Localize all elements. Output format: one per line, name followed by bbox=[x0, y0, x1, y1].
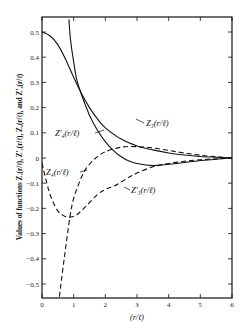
y-tick-label: −0.2 bbox=[26, 205, 39, 213]
x-tick-label: 2 bbox=[104, 301, 108, 309]
x-tick-label: 1 bbox=[72, 301, 76, 309]
y-axis-ticks: 0.50.40.30.20.10−0.1−0.2−0.3−0.4−0.5 bbox=[26, 29, 232, 289]
y-tick-label: −0.5 bbox=[26, 281, 39, 289]
curve-z4r bbox=[69, 19, 232, 165]
annotation-pointer bbox=[80, 170, 87, 172]
curve-z3r bbox=[42, 32, 232, 158]
curves bbox=[42, 19, 232, 296]
y-tick-label: 0 bbox=[36, 155, 40, 163]
x-tick-label: 6 bbox=[230, 301, 234, 309]
y-tick-label: 0.3 bbox=[30, 79, 39, 87]
chart: 0123456 0.50.40.30.20.10−0.1−0.2−0.3−0.4… bbox=[0, 0, 243, 329]
y-axis-title: Values of functions Z₃(r/ℓ), Z'₃(r/ℓ), Z… bbox=[16, 73, 24, 240]
x-tick-label: 4 bbox=[167, 301, 171, 309]
y-tick-label: 0.2 bbox=[30, 104, 39, 112]
plot-frame bbox=[42, 17, 232, 298]
y-tick-label: 0.1 bbox=[30, 129, 39, 137]
x-tick-label: 3 bbox=[135, 301, 139, 309]
label-z4-prime: Z'₄(r/ℓ) bbox=[55, 128, 80, 138]
y-tick-label: −0.3 bbox=[26, 230, 39, 238]
y-tick-label: −0.1 bbox=[26, 180, 39, 188]
annotation-pointer bbox=[95, 130, 104, 133]
x-tick-label: 0 bbox=[40, 301, 44, 309]
x-axis-title: (r/ℓ) bbox=[130, 313, 144, 322]
y-tick-label: 0.4 bbox=[30, 54, 39, 62]
annotation-pointer bbox=[124, 187, 130, 190]
annotation-pointer bbox=[136, 119, 144, 123]
label-z4: Z₄(r/ℓ) bbox=[46, 167, 69, 177]
y-tick-label: −0.4 bbox=[26, 255, 39, 263]
x-tick-label: 5 bbox=[199, 301, 203, 309]
label-z3-prime: Z'₃(r/ℓ) bbox=[131, 185, 156, 195]
y-tick-label: 0.5 bbox=[30, 29, 39, 37]
curve-annotations bbox=[80, 119, 144, 190]
label-z3: Z₃(r/ℓ) bbox=[146, 118, 169, 128]
